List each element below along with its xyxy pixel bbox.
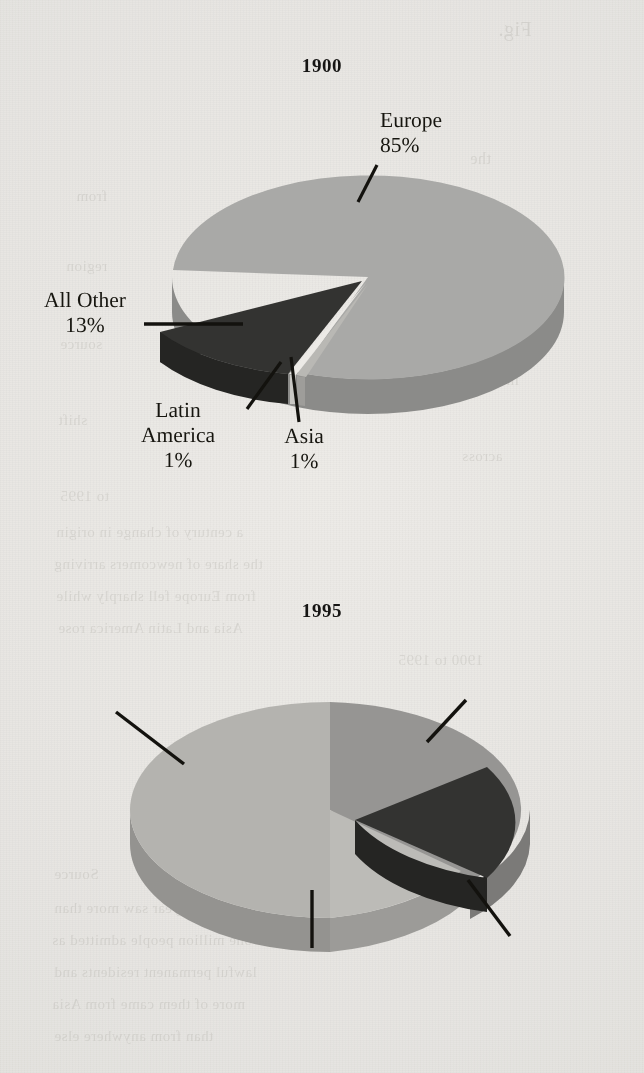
label-latin-america-1900-text2: America [112, 423, 244, 448]
label-latin-america-1900: Latin America 1% [112, 398, 244, 473]
leader-line-asia-1995 [116, 712, 184, 764]
label-europe-1900-percent: 85% [380, 133, 442, 158]
label-all-other-1900: All Other 13% [26, 288, 144, 338]
label-all-other-1900-percent: 13% [26, 313, 144, 338]
label-latin-america-1900-text: Latin [155, 398, 200, 422]
label-all-other-1900-text: All Other [44, 288, 126, 312]
label-asia-1900-text: Asia [284, 424, 323, 448]
label-latin-america-1900-percent: 1% [112, 448, 244, 473]
label-asia-1900-percent: 1% [256, 449, 352, 474]
pie-1995-graphic [0, 520, 644, 1073]
page-canvas: Fig.thefrompercentregionimmigrantssource… [0, 0, 644, 1073]
asia-1900-side [297, 376, 305, 406]
label-europe-1900-text: Europe [380, 108, 442, 132]
label-europe-1900: Europe 85% [380, 108, 442, 158]
label-asia-1900: Asia 1% [256, 424, 352, 474]
chart-1900: 1900 [0, 0, 644, 520]
chart-1995: 1995 [0, 520, 644, 1073]
